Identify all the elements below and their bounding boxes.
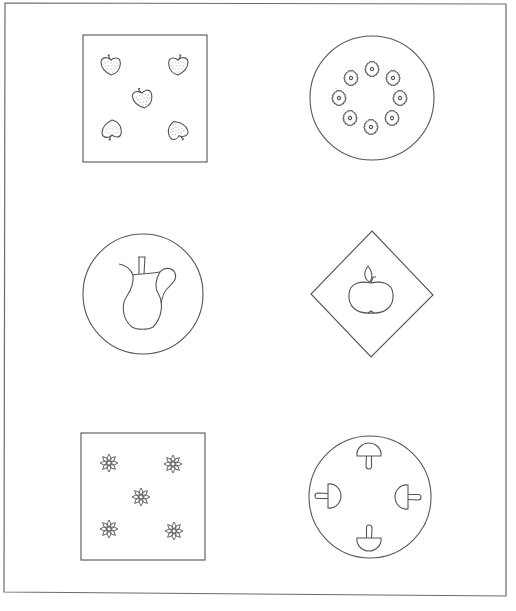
worksheet: Pattern plates worksheet: [0, 0, 516, 611]
round-plate: [83, 234, 203, 354]
panel-star-flower-square: [81, 433, 205, 560]
strawberry-icon: [169, 55, 188, 75]
flower-icon: [344, 71, 358, 86]
strawberry-icon: [102, 120, 121, 140]
panel-apple-diamond: [311, 231, 433, 357]
mushroom-icon: [315, 484, 341, 508]
flower-icon: [332, 91, 346, 106]
star-flower-icon: [164, 455, 182, 473]
round-plate: [309, 436, 431, 558]
diamond-plate: [311, 231, 433, 357]
star-flower-icon: [165, 522, 183, 540]
square-plate: [83, 35, 207, 162]
strawberry-icon: [101, 55, 120, 75]
flower-icon: [343, 111, 357, 126]
apple-icon: [349, 266, 393, 313]
jug-icon: [119, 257, 176, 329]
mushroom-icon: [357, 525, 381, 551]
flower-icon: [393, 91, 407, 106]
round-plate: [310, 36, 434, 160]
panel-strawberry-square: [83, 35, 207, 162]
panel-flower-ring-circle: [310, 36, 434, 160]
strawberry-icon: [131, 87, 154, 110]
flower-icon: [365, 62, 379, 77]
flower-icon: [385, 111, 399, 126]
mushroom-icon: [357, 443, 381, 469]
panel-jug-circle: [83, 234, 203, 354]
mushroom-icon: [395, 485, 421, 509]
strawberry-icon: [165, 118, 190, 143]
flower-icon: [386, 71, 400, 86]
star-flower-icon: [100, 520, 118, 538]
panel-mushroom-circle: [309, 436, 431, 558]
star-flower-icon: [100, 454, 118, 472]
star-flower-icon: [132, 488, 150, 506]
flower-icon: [364, 120, 378, 135]
